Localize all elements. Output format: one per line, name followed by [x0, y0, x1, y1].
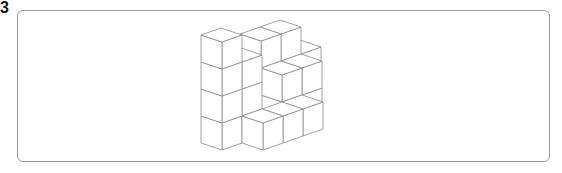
cube-stack [201, 20, 323, 150]
cube-stack-figure [0, 0, 562, 173]
